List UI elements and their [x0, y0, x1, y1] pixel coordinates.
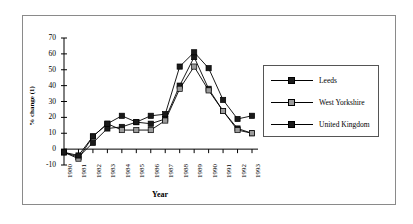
chart-screenshot: % change (1) Year -10010203040506070 198… [0, 0, 413, 224]
data-point-marker [148, 121, 153, 126]
legend-label: Leeds [319, 76, 337, 85]
data-point-marker [177, 64, 182, 69]
data-point-marker [148, 127, 153, 132]
data-point-marker [220, 97, 225, 102]
legend-marker-icon [271, 74, 313, 86]
legend-item-west-yorkshire[interactable]: West Yorkshire [264, 92, 380, 112]
data-point-marker [76, 153, 81, 158]
data-point-marker [249, 131, 254, 136]
data-point-marker [192, 64, 197, 69]
legend-label: United Kingdom [319, 120, 370, 129]
legend-item-leeds[interactable]: Leeds [264, 70, 380, 90]
data-point-marker [134, 127, 139, 132]
legend-marker-icon [271, 118, 313, 130]
data-point-marker [163, 112, 168, 117]
data-point-marker [90, 140, 95, 145]
data-point-marker [220, 108, 225, 113]
legend-item-united-kingdom[interactable]: United Kingdom [264, 114, 380, 134]
legend-label: West Yorkshire [319, 98, 365, 107]
data-point-marker [119, 127, 124, 132]
data-point-marker [206, 88, 211, 93]
legend: Leeds West Yorkshire United Kingdom [263, 65, 379, 137]
data-point-marker [235, 127, 240, 132]
data-point-marker [90, 134, 95, 139]
legend-marker-icon [271, 96, 313, 108]
data-point-marker [61, 150, 66, 155]
data-point-marker [119, 113, 124, 118]
data-point-marker [206, 66, 211, 71]
data-point-marker [134, 120, 139, 125]
data-point-marker [105, 121, 110, 126]
data-point-marker [249, 113, 254, 118]
data-point-marker [148, 113, 153, 118]
data-point-marker [163, 118, 168, 123]
data-point-marker [192, 50, 197, 55]
data-point-marker [235, 116, 240, 121]
data-point-marker [177, 86, 182, 91]
